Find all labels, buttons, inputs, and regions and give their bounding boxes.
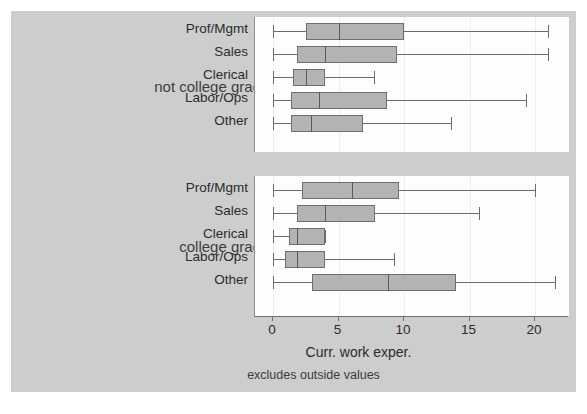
- category-labels-college-grad: Prof/MgmtSalesClericalLabor/OpsOther: [120, 176, 248, 291]
- box-iqr: [293, 69, 326, 86]
- category-label-labor-ops: Labor/Ops: [120, 245, 248, 268]
- upper-whisker: [456, 282, 554, 283]
- whisker-cap-max: [374, 71, 375, 84]
- whisker-cap-max: [535, 184, 536, 197]
- category-label-prof-mgmt: Prof/Mgmt: [120, 176, 248, 199]
- box-iqr: [285, 251, 326, 268]
- whisker-cap-min: [273, 276, 274, 289]
- median-line: [297, 228, 298, 245]
- category-label-other: Other: [120, 268, 248, 291]
- box-plot-row: [255, 20, 569, 43]
- whisker-cap-max: [555, 276, 556, 289]
- box-iqr: [312, 274, 456, 291]
- box-plot-row: [255, 225, 569, 248]
- upper-whisker: [363, 123, 451, 124]
- lower-whisker: [273, 259, 285, 260]
- x-tick-label-15: 15: [461, 322, 476, 337]
- box-plot-row: [255, 112, 569, 135]
- x-tick-label-5: 5: [334, 322, 342, 337]
- box-iqr: [291, 92, 387, 109]
- upper-whisker: [399, 190, 535, 191]
- category-labels-not-college-grad: Prof/MgmtSalesClericalLabor/OpsOther: [120, 17, 248, 132]
- box-plot-row: [255, 179, 569, 202]
- whisker-cap-min: [273, 207, 274, 220]
- lower-whisker: [273, 236, 289, 237]
- median-line: [325, 205, 326, 222]
- box-iqr: [306, 23, 404, 40]
- upper-whisker: [397, 54, 548, 55]
- x-axis-label: Curr. work exper.: [0, 344, 587, 360]
- lower-whisker: [273, 123, 291, 124]
- box-iqr: [297, 46, 398, 63]
- box-plot-row: [255, 89, 569, 112]
- category-label-other: Other: [120, 109, 248, 132]
- plot-panel-not-college-grad: [254, 17, 569, 152]
- whisker-cap-max: [548, 48, 549, 61]
- lower-whisker: [273, 77, 293, 78]
- boxplot-figure: not college grad college grad Prof/MgmtS…: [0, 0, 587, 414]
- x-tick-label-0: 0: [268, 322, 276, 337]
- box-plot-row: [255, 202, 569, 225]
- box-plot-row: [255, 271, 569, 294]
- category-label-labor-ops: Labor/Ops: [120, 86, 248, 109]
- x-tick-15: [469, 316, 470, 321]
- x-tick-label-10: 10: [395, 322, 410, 337]
- lower-whisker: [273, 190, 302, 191]
- median-line: [388, 274, 389, 291]
- lower-whisker: [273, 54, 297, 55]
- category-label-sales: Sales: [120, 40, 248, 63]
- whisker-cap-max: [325, 230, 326, 243]
- x-tick-10: [403, 316, 404, 321]
- whisker-cap-max: [526, 94, 527, 107]
- x-tick-20: [534, 316, 535, 321]
- lower-whisker: [273, 100, 291, 101]
- box-iqr: [291, 115, 363, 132]
- box-plot-row: [255, 43, 569, 66]
- category-label-clerical: Clerical: [120, 63, 248, 86]
- whisker-cap-max: [479, 207, 480, 220]
- whisker-cap-min: [273, 184, 274, 197]
- chart-note: excludes outside values: [0, 368, 587, 382]
- median-line: [297, 251, 298, 268]
- whisker-cap-min: [273, 94, 274, 107]
- whisker-cap-min: [273, 117, 274, 130]
- box-plot-row: [255, 248, 569, 271]
- whisker-cap-min: [273, 253, 274, 266]
- box-iqr: [297, 205, 376, 222]
- lower-whisker: [273, 282, 312, 283]
- category-label-prof-mgmt: Prof/Mgmt: [120, 17, 248, 40]
- x-tick-5: [338, 316, 339, 321]
- upper-whisker: [325, 259, 393, 260]
- whisker-cap-max: [394, 253, 395, 266]
- whisker-cap-max: [548, 25, 549, 38]
- median-line: [325, 46, 326, 63]
- upper-whisker: [404, 31, 548, 32]
- median-line: [352, 182, 353, 199]
- whisker-cap-min: [273, 48, 274, 61]
- lower-whisker: [273, 31, 306, 32]
- upper-whisker: [387, 100, 526, 101]
- x-tick-0: [272, 316, 273, 321]
- upper-whisker: [375, 213, 478, 214]
- plot-panel-college-grad: [254, 176, 569, 316]
- box-iqr: [302, 182, 399, 199]
- whisker-cap-min: [273, 230, 274, 243]
- median-line: [319, 92, 320, 109]
- x-tick-label-20: 20: [526, 322, 541, 337]
- whisker-cap-max: [451, 117, 452, 130]
- category-label-sales: Sales: [120, 199, 248, 222]
- upper-whisker: [325, 77, 373, 78]
- median-line: [306, 69, 307, 86]
- category-label-clerical: Clerical: [120, 222, 248, 245]
- median-line: [311, 115, 312, 132]
- median-line: [339, 23, 340, 40]
- whisker-cap-min: [273, 71, 274, 84]
- whisker-cap-min: [273, 25, 274, 38]
- box-plot-row: [255, 66, 569, 89]
- box-iqr: [289, 228, 326, 245]
- x-axis-line: [254, 316, 568, 317]
- lower-whisker: [273, 213, 297, 214]
